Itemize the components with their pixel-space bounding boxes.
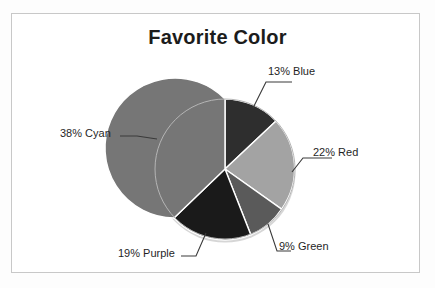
pie-label-purple: 19% Purple — [118, 247, 175, 259]
leader-line-blue — [253, 82, 292, 108]
pie-chart-svg — [0, 0, 435, 288]
pie-label-cyan: 38% Cyan — [60, 127, 111, 139]
pie-label-blue: 13% Blue — [268, 65, 315, 77]
leader-line-red — [292, 158, 332, 172]
pie-label-green: 9% Green — [279, 240, 329, 252]
chart-page: Favorite Color 13% Blue — [0, 0, 435, 288]
pie-label-red: 22% Red — [313, 146, 358, 158]
pie-chart-plot-area: 13% Blue 22% Red 9% Green 19% Purple 38%… — [0, 0, 435, 288]
